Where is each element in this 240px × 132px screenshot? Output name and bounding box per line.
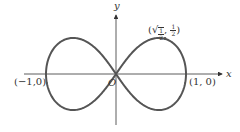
sqrt-fraction-den: 2 xyxy=(159,35,163,41)
x-axis-label: x xyxy=(226,69,232,79)
origin-label: O xyxy=(108,78,116,88)
max-point-suffix: ) xyxy=(176,24,180,35)
y-axis-label: y xyxy=(114,1,120,11)
diagram-canvas xyxy=(0,0,240,132)
max-point-label: (√12, 12) xyxy=(148,24,180,41)
left-intercept-label: (−1,0) xyxy=(14,77,46,87)
right-intercept-label: (1, 0) xyxy=(189,77,216,87)
y-fraction-den: 2 xyxy=(171,31,175,37)
